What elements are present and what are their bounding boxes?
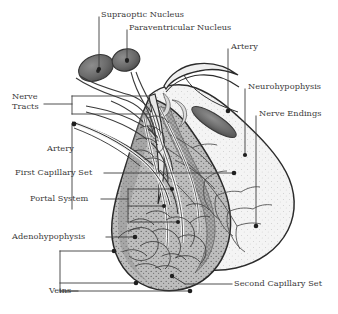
label-adenohypophysis: Adenohypophysis [12, 232, 85, 241]
label-artery-left: Artery [47, 144, 74, 153]
label-second-capillary-set: Second Capillary Set [234, 279, 322, 288]
dot-vein-2 [134, 281, 139, 286]
label-veins: Veins [49, 286, 71, 295]
label-nerve-tracts-line2: Tracts [12, 102, 39, 112]
label-artery-top: Artery [231, 42, 258, 51]
label-paraventricular-nucleus: Paraventricular Nucleus [129, 23, 231, 32]
dot-second-capillary [170, 274, 174, 278]
dot-adenohypophysis [133, 235, 138, 240]
dot-vein-1 [112, 249, 117, 254]
label-first-capillary-set: First Capillary Set [15, 168, 92, 177]
diagram-canvas: Supraoptic Nucleus Paraventricular Nucle… [0, 0, 338, 314]
label-supraoptic-nucleus: Supraoptic Nucleus [101, 10, 184, 19]
dot-portal-1 [170, 187, 174, 191]
label-nerve-tracts: Nerve Tracts [12, 92, 39, 111]
dot-supraoptic [97, 67, 101, 71]
dot-portal-3 [176, 220, 180, 224]
dot-first-capillary [232, 171, 237, 176]
label-neurohypophysis: Neurohypophysis [248, 82, 321, 91]
dot-nerve-endings [254, 224, 259, 229]
dot-vein-3 [188, 289, 193, 294]
label-nerve-endings: Nerve Endings [259, 109, 321, 118]
label-portal-system: Portal System [30, 194, 88, 203]
anatomy-illustration [0, 0, 338, 314]
dot-artery-left [72, 122, 77, 127]
dot-artery-top [226, 109, 231, 114]
dot-neurohypophysis [243, 153, 247, 157]
dot-portal-2 [162, 204, 166, 208]
dot-paraventricular [125, 58, 129, 62]
